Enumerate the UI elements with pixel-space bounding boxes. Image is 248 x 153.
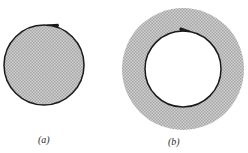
shaded-annulus-b: [0, 0, 248, 153]
caption-a: (a): [38, 135, 50, 145]
panel-b-group: [0, 0, 248, 153]
figure-panel: (a) (b): [0, 0, 248, 153]
figure-svg: [0, 0, 248, 153]
caption-b: (b): [168, 137, 180, 147]
